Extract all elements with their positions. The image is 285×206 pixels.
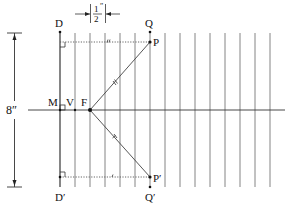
label-D: D <box>55 17 63 29</box>
point-M <box>59 109 61 111</box>
height-dimension-label: 8″ <box>6 103 17 117</box>
point-Q <box>149 31 152 34</box>
point-D-prime <box>59 176 62 179</box>
spacing-numerator: 1 <box>94 4 99 14</box>
point-P <box>148 40 151 43</box>
label-Q: Q <box>145 17 153 29</box>
dimension-arrow-up <box>13 34 17 40</box>
label-P: P <box>153 36 159 48</box>
dimension-arrow-down <box>13 180 17 186</box>
label-D-prime: D′ <box>55 191 65 203</box>
spacing-arrow-right <box>85 12 90 16</box>
label-Q-prime: Q′ <box>145 191 155 203</box>
equal-length-ticks <box>107 40 118 178</box>
label-F: F <box>81 96 87 108</box>
label-V: V <box>66 96 74 108</box>
spacing-denominator: 2 <box>94 14 99 24</box>
point-F <box>88 108 92 112</box>
point-Q-prime <box>149 186 152 189</box>
point-V <box>74 109 76 111</box>
label-P-prime: P′ <box>153 172 162 184</box>
label-M: M <box>48 96 58 108</box>
spacing-unit: ″ <box>100 2 103 11</box>
right-angle-marker-top <box>60 42 65 47</box>
point-P-prime <box>148 175 151 178</box>
parabola-construction-diagram: D D′ Q Q′ P P′ M V F 8″ 1 2 ″ <box>0 0 285 206</box>
spacing-arrow-left <box>106 12 111 16</box>
point-D <box>59 31 62 34</box>
